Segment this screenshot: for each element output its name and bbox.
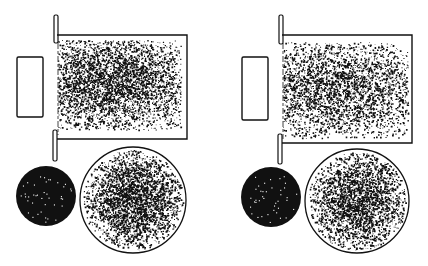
lower-slit (53, 130, 57, 161)
right-panel (241, 15, 412, 253)
large-scatter-disc (80, 147, 186, 253)
beam-scatter-cloud (283, 42, 409, 139)
source-block (242, 57, 268, 120)
left-panel (16, 15, 187, 253)
upper-slit (279, 15, 283, 44)
source-block (17, 57, 43, 117)
small-dark-disc (241, 167, 301, 227)
upper-slit (54, 15, 58, 43)
beam-diagram-svg (0, 0, 428, 266)
diagram-figure (0, 0, 428, 266)
small-dark-disc (16, 166, 76, 226)
large-scatter-disc (305, 149, 409, 253)
beam-scatter-cloud (58, 40, 182, 131)
lower-slit (278, 134, 282, 164)
